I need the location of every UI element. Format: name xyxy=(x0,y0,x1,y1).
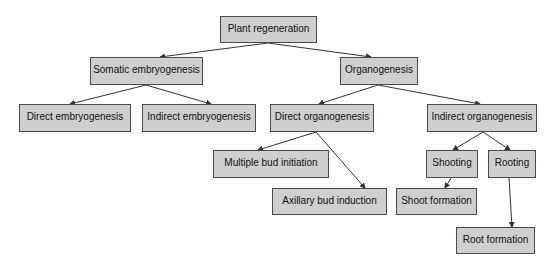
node-multi-bud: Multiple bud initiation xyxy=(213,150,329,178)
node-label: Shooting xyxy=(432,157,471,168)
node-organo: Organogenesis xyxy=(340,57,418,85)
node-root: Plant regeneration xyxy=(220,16,317,43)
node-label: Multiple bud initiation xyxy=(224,157,317,168)
arrow-root-to-somatic xyxy=(160,43,268,57)
node-label: Direct organogenesis xyxy=(275,111,370,122)
arrow-shooting-to-shoot_form xyxy=(445,178,451,188)
node-shoot-form: Shoot formation xyxy=(396,188,477,215)
node-indirect-emb: Indirect embryogenesis xyxy=(142,104,256,132)
arrow-indirect_org-to-shooting xyxy=(453,132,483,150)
node-direct-emb: Direct embryogenesis xyxy=(19,104,131,132)
node-somatic: Somatic embryogenesis xyxy=(90,57,203,85)
node-label: Direct embryogenesis xyxy=(27,111,124,122)
node-indirect-org: Indirect organogenesis xyxy=(427,104,537,132)
node-root-form: Root formation xyxy=(456,227,535,254)
node-direct-org: Direct organogenesis xyxy=(270,104,374,132)
node-shooting: Shooting xyxy=(426,150,478,178)
node-label: Plant regeneration xyxy=(228,23,310,34)
node-label: Axillary bud induction xyxy=(282,195,377,206)
node-label: Somatic embryogenesis xyxy=(93,64,200,75)
node-label: Indirect organogenesis xyxy=(431,111,532,122)
node-label: Rooting xyxy=(495,157,529,168)
node-rooting: Rooting xyxy=(488,150,536,178)
arrow-organo-to-direct_org xyxy=(319,85,378,104)
arrow-somatic-to-direct_emb xyxy=(70,85,146,104)
arrow-organo-to-indirect_org xyxy=(378,85,480,104)
plant-regeneration-diagram: Plant regenerationSomatic embryogenesisO… xyxy=(0,0,553,271)
arrow-rooting-to-root_form xyxy=(509,178,512,227)
node-label: Organogenesis xyxy=(345,64,413,75)
arrow-somatic-to-indirect_emb xyxy=(146,85,211,104)
node-axillary: Axillary bud induction xyxy=(272,188,387,215)
arrow-root-to-organo xyxy=(268,43,371,57)
arrow-indirect_org-to-rooting xyxy=(483,132,510,150)
arrow-direct_org-to-multi_bud xyxy=(258,132,316,150)
node-label: Root formation xyxy=(463,234,529,245)
node-label: Shoot formation xyxy=(401,195,472,206)
node-label: Indirect embryogenesis xyxy=(147,111,250,122)
